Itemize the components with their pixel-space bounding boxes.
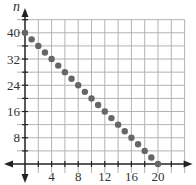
data-point xyxy=(108,115,114,121)
data-point xyxy=(148,154,154,160)
data-point xyxy=(55,62,61,68)
y-axis-arrow-down-icon xyxy=(22,174,29,183)
data-point xyxy=(135,141,141,147)
data-point xyxy=(155,161,161,167)
y-tick-label: 40 xyxy=(7,25,20,40)
y-tick-label: 8 xyxy=(14,130,21,145)
data-point xyxy=(128,135,134,141)
data-point xyxy=(48,56,54,62)
tick-labels: 48121620816243240 xyxy=(7,25,165,184)
data-point xyxy=(62,69,68,75)
data-point xyxy=(75,82,81,88)
y-axis-arrow-up-icon xyxy=(22,8,29,17)
x-tick-label: 12 xyxy=(98,169,111,184)
y-tick-label: 16 xyxy=(7,104,21,119)
data-point xyxy=(28,36,34,42)
y-tick-label: 24 xyxy=(7,78,21,93)
data-point xyxy=(68,76,74,82)
data-point xyxy=(35,43,41,49)
y-axis-label: n xyxy=(13,0,20,14)
y-tick-label: 32 xyxy=(7,52,20,67)
data-point xyxy=(142,148,148,154)
x-tick-label: 8 xyxy=(75,169,82,184)
data-point xyxy=(102,108,108,114)
data-point xyxy=(95,102,101,108)
scatter-chart: 48121620816243240 d n xyxy=(0,0,196,185)
tick-marks xyxy=(22,20,185,167)
x-tick-label: 20 xyxy=(152,169,165,184)
axes xyxy=(4,8,193,183)
data-point xyxy=(82,89,88,95)
x-tick-label: 4 xyxy=(48,169,55,184)
data-point xyxy=(88,95,94,101)
data-point xyxy=(22,30,28,36)
data-point xyxy=(42,49,48,55)
data-point xyxy=(122,128,128,134)
data-point xyxy=(115,121,121,127)
grid-lines xyxy=(17,20,185,173)
x-tick-label: 16 xyxy=(125,169,139,184)
x-axis-arrow-left-icon xyxy=(4,161,13,168)
